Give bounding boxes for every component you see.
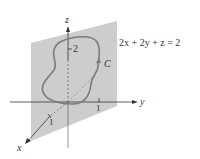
z-axis-arrow-icon xyxy=(66,26,70,32)
x-axis-label: x xyxy=(17,143,21,153)
plane-equation: 2x + 2y + z = 2 xyxy=(119,38,180,48)
diagram-canvas xyxy=(0,0,200,159)
x-tick-label: 1 xyxy=(49,118,54,127)
y-axis-arrow-icon xyxy=(132,100,138,104)
y-tick-label: 1 xyxy=(96,104,101,113)
y-axis-label: y xyxy=(140,97,144,107)
curve-label: C xyxy=(104,59,111,69)
z-tick-label: 2 xyxy=(73,44,78,54)
z-axis-label: z xyxy=(65,15,69,25)
